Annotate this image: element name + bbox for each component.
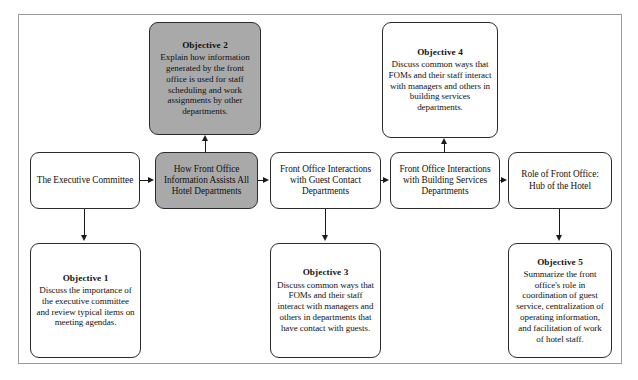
node-objective-5[interactable]: Objective 5 Summarize the front office's… xyxy=(508,243,612,358)
node-building-services-interactions[interactable]: Front Office Interactions with Building … xyxy=(390,152,500,209)
node-objective-1[interactable]: Objective 1 Discuss the importance of th… xyxy=(30,243,141,358)
node-objective-2[interactable]: Objective 2 Explain how information gene… xyxy=(149,22,261,135)
node-guest-contact-interactions[interactable]: Front Office Interactions with Guest Con… xyxy=(270,152,381,209)
node-front-office-information[interactable]: How Front Office Information Assists All… xyxy=(155,152,258,209)
node-body: Role of Front Office: Hub of the Hotel xyxy=(514,169,606,191)
node-objective-4[interactable]: Objective 4 Discuss common ways that FOM… xyxy=(382,22,498,138)
diagram-canvas: Objective 2 Explain how information gene… xyxy=(0,0,638,380)
node-body: Summarize the front office's role in coo… xyxy=(514,269,606,345)
node-heading: Objective 5 xyxy=(537,257,583,268)
node-heading: Objective 3 xyxy=(303,267,349,278)
node-body: Discuss common ways that FOMs and their … xyxy=(276,280,375,334)
node-executive-committee[interactable]: The Executive Committee xyxy=(30,152,140,209)
node-heading: Objective 1 xyxy=(63,273,109,284)
node-body: Explain how information generated by the… xyxy=(155,52,255,117)
node-body: How Front Office Information Assists All… xyxy=(161,164,252,197)
node-heading: Objective 2 xyxy=(182,40,228,51)
node-objective-3[interactable]: Objective 3 Discuss common ways that FOM… xyxy=(270,243,381,358)
node-body: Discuss common ways that FOMs and their … xyxy=(388,59,492,113)
node-heading: Objective 4 xyxy=(417,47,463,58)
node-body: Front Office Interactions with Guest Con… xyxy=(276,164,375,197)
node-role-of-front-office[interactable]: Role of Front Office: Hub of the Hotel xyxy=(508,152,612,209)
node-body: The Executive Committee xyxy=(37,175,133,186)
node-body: Discuss the importance of the executive … xyxy=(36,285,135,328)
node-body: Front Office Interactions with Building … xyxy=(396,164,494,197)
